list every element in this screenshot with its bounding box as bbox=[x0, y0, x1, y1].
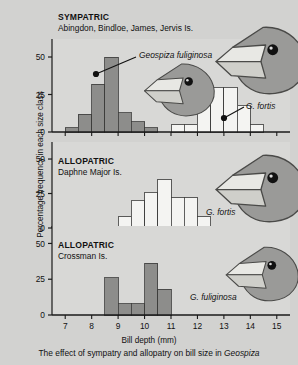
x-axis-tick-label: 12 bbox=[193, 321, 203, 331]
histogram-bar bbox=[118, 113, 131, 133]
histogram-bar bbox=[158, 289, 171, 315]
histogram-bar bbox=[145, 192, 158, 228]
x-axis-tick-label: 7 bbox=[63, 321, 68, 331]
y-axis-label: Percentage frequency in each size class bbox=[36, 65, 45, 265]
histogram-bar bbox=[250, 125, 263, 133]
x-axis-tick-label: 10 bbox=[140, 321, 150, 331]
histogram-bar bbox=[65, 128, 78, 133]
histogram-bar bbox=[184, 125, 197, 133]
x-axis-tick-label: 11 bbox=[167, 321, 176, 331]
bird-eye-highlight bbox=[269, 174, 272, 177]
leader-dot bbox=[221, 115, 227, 121]
histogram-bar bbox=[105, 278, 118, 315]
bird-eye-highlight bbox=[269, 46, 272, 49]
bird-eye bbox=[184, 77, 192, 85]
caption-genus: Geospiza bbox=[224, 348, 259, 358]
y-axis-tick-label: 0 bbox=[40, 310, 45, 320]
histogram-bar bbox=[158, 180, 171, 228]
histogram-bar bbox=[105, 57, 118, 132]
histogram-bar bbox=[171, 198, 184, 228]
figure-caption: The effect of sympatry and allopatry on … bbox=[0, 348, 298, 358]
caption-text: The effect of sympatry and allopatry on … bbox=[39, 348, 225, 358]
figure-canvas: 025500255002550789101112131415 bbox=[0, 0, 298, 365]
histogram-bar bbox=[237, 105, 250, 132]
x-axis-tick-label: 8 bbox=[89, 321, 94, 331]
bird-eye bbox=[267, 261, 276, 270]
leader-dot bbox=[93, 71, 99, 77]
bird-eye-highlight bbox=[186, 79, 189, 82]
bird-eye bbox=[267, 44, 278, 55]
y-axis-tick-label: 50 bbox=[36, 52, 46, 62]
histogram-bar bbox=[131, 200, 144, 228]
histogram-bar bbox=[184, 198, 197, 228]
bird-eye bbox=[267, 172, 278, 183]
histogram-bar bbox=[145, 263, 158, 315]
histogram-bar bbox=[171, 125, 184, 133]
histogram-bar bbox=[78, 114, 91, 132]
y-axis-tick-label: 25 bbox=[36, 274, 46, 284]
histogram-bar bbox=[92, 84, 105, 132]
x-axis-tick-label: 15 bbox=[272, 321, 282, 331]
x-axis-tick-label: 13 bbox=[219, 321, 229, 331]
bird-eye-highlight bbox=[269, 263, 272, 266]
histogram-bar bbox=[145, 128, 158, 133]
bill-depth-histogram-figure: 025500255002550789101112131415 Percentag… bbox=[0, 0, 298, 365]
histogram-bar bbox=[118, 304, 131, 315]
histogram-bar bbox=[131, 122, 144, 133]
x-axis-tick-label: 14 bbox=[246, 321, 256, 331]
histogram-bar bbox=[131, 304, 144, 315]
x-axis-tick-label: 9 bbox=[116, 321, 121, 331]
histogram-bar bbox=[224, 87, 237, 132]
